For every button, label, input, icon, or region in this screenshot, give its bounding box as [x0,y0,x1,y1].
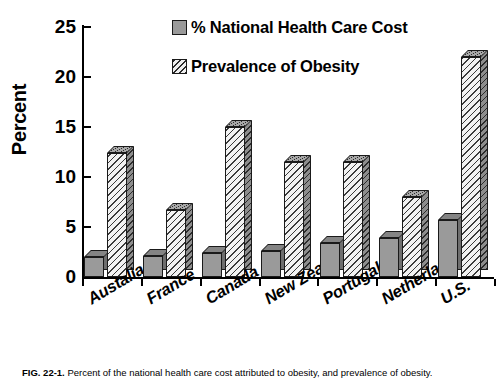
chart-legend: % National Health Care Cost Prevalence o… [172,18,407,96]
y-axis-tick-label: 5 [30,216,76,238]
bar-obesity [343,162,363,277]
y-axis-tick-label: 25 [30,16,76,38]
bar-obesity [284,162,304,277]
y-axis-tick-label: 20 [30,66,76,88]
bar-health-cost [320,243,340,277]
solid-swatch-icon [172,20,187,35]
x-axis-tick-mark [82,279,84,286]
x-axis-tick-mark [141,279,143,286]
y-axis-tick-mark [84,176,91,178]
legend-label-health-cost: % National Health Care Cost [191,18,407,37]
bar-side-face [127,146,134,270]
bar-side-face [245,120,252,270]
x-axis-tick-mark [494,279,496,286]
bar-health-cost [379,238,399,277]
bar-health-cost [438,220,458,277]
y-axis-tick-mark [84,26,91,28]
bar-health-cost [84,257,104,277]
bar-health-cost [202,253,222,277]
x-axis-tick-mark [259,279,261,286]
bar-obesity [225,127,245,277]
y-axis-tick-mark [84,126,91,128]
y-axis-tick-label: 0 [30,266,76,288]
figure-caption: FIG. 22-1. Percent of the national healt… [22,367,492,378]
bar-chart: Percent % National Health Care Cost Prev… [0,0,504,379]
legend-item-health-cost: % National Health Care Cost [172,18,407,37]
x-axis-tick-mark [200,279,202,286]
legend-item-obesity: Prevalence of Obesity [172,57,407,76]
x-axis-tick-mark [435,279,437,286]
caption-text: Percent of the national health care cost… [67,367,432,378]
y-axis-tick-mark [84,76,91,78]
bar-obesity [461,57,481,277]
y-axis-tick-label: 15 [30,116,76,138]
hatch-swatch-icon [172,59,187,74]
bar-side-face [481,50,488,270]
bar-side-face [186,203,193,270]
bar-side-face [304,155,311,270]
bar-health-cost [143,256,163,277]
y-axis-tick-label: 10 [30,166,76,188]
y-axis-tick-mark [84,226,91,228]
x-axis-tick-mark [376,279,378,286]
bar-obesity [107,153,127,277]
bar-obesity [402,197,422,277]
bar-side-face [363,155,370,270]
legend-label-obesity: Prevalence of Obesity [191,57,359,76]
y-axis-title: Percent [8,55,31,185]
x-axis-label: U.S. [437,276,474,308]
bar-side-face [422,190,429,270]
caption-figure-number: FIG. 22-1. [22,367,65,378]
bar-health-cost [261,251,281,277]
